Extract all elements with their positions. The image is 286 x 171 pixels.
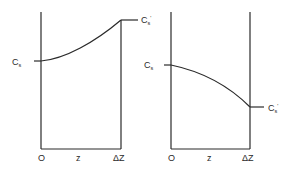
left-panel-cs-prime-label: Cs' — [141, 15, 151, 26]
concentration-profile-diagram: Cs Cs' O z ΔZ Cs Cs' O z ΔZ — [0, 0, 286, 171]
right-panel-falling-curve — [171, 65, 250, 107]
right-panel-deltaz-label: ΔZ — [242, 153, 254, 163]
right-panel-cs-label: Cs — [144, 60, 154, 71]
right-panel-z-label: z — [207, 153, 212, 163]
left-panel-cs-label: Cs — [12, 57, 22, 68]
left-panel-origin-label: O — [38, 153, 45, 163]
left-panel-z-label: z — [76, 153, 81, 163]
left-panel-rising-curve — [41, 20, 121, 61]
right-panel-cs-prime-label: Cs' — [268, 103, 278, 114]
right-panel-origin-label: O — [168, 153, 175, 163]
left-panel-deltaz-label: ΔZ — [113, 153, 125, 163]
right-panel: Cs Cs' O z ΔZ — [144, 12, 278, 163]
left-panel: Cs Cs' O z ΔZ — [12, 12, 151, 163]
